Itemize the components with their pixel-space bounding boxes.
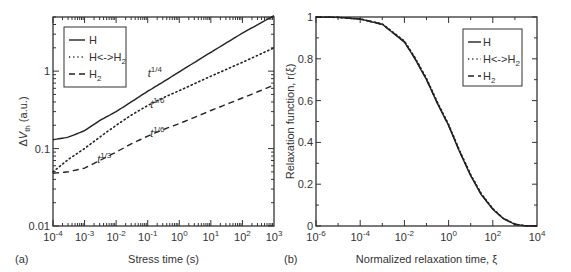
x-tick-label: 102 xyxy=(484,229,501,243)
annotation-power-law: t1/6 xyxy=(150,96,165,110)
x-tick-label: 10-2 xyxy=(395,229,415,243)
y-tick-label: 0.2 xyxy=(298,178,313,190)
x-tick-label: 102 xyxy=(234,229,251,243)
panel-a: 10-410-310-210-11001011021030.010.11Stre… xyxy=(15,16,283,265)
legend-label: H xyxy=(89,34,97,46)
legend: HH<->H2H2 xyxy=(463,29,522,86)
y-tick-label: 0.1 xyxy=(35,143,50,155)
annotation-power-law: t1/3 xyxy=(97,151,112,165)
x-tick-label: 100 xyxy=(171,229,188,243)
panel-b: 10-610-410-210010210400.20.40.60.81Norma… xyxy=(284,11,546,265)
x-tick-label: 100 xyxy=(440,229,457,243)
y-tick-label: 0.6 xyxy=(298,95,313,107)
y-tick-label: 1 xyxy=(44,65,50,77)
panel-label: (b) xyxy=(284,253,297,265)
x-tick-label: 103 xyxy=(266,229,283,243)
y-tick-label: 1 xyxy=(307,11,313,23)
x-tick-label: 10-4 xyxy=(351,229,371,243)
y-axis-label: Relaxation function, r(ξ) xyxy=(284,64,296,180)
y-tick-label: 0.01 xyxy=(29,220,50,232)
x-axis-label: Stress time (s) xyxy=(128,253,199,265)
x-tick-label: 10-3 xyxy=(75,229,95,243)
annotation-power-law: t1/4 xyxy=(148,65,163,79)
legend-label: H xyxy=(483,36,491,48)
x-axis-label: Normalized relaxation time, ξ xyxy=(356,253,497,265)
x-tick-label: 104 xyxy=(529,229,546,243)
legend: HH<->H2H2 xyxy=(64,27,126,87)
panel-label: (a) xyxy=(15,253,28,265)
y-tick-label: 0.8 xyxy=(298,53,313,65)
x-tick-label: 101 xyxy=(203,229,220,243)
figure: 10-410-310-210-11001011021030.010.11Stre… xyxy=(0,0,571,272)
x-tick-label: 10-1 xyxy=(138,229,158,243)
y-axis-label: ΔVth (a.u.) xyxy=(17,96,32,146)
annotation-power-law: t1/6 xyxy=(150,125,165,139)
y-tick-label: 0 xyxy=(307,220,313,232)
y-tick-label: 0.4 xyxy=(298,136,313,148)
x-tick-label: 10-2 xyxy=(106,229,126,243)
